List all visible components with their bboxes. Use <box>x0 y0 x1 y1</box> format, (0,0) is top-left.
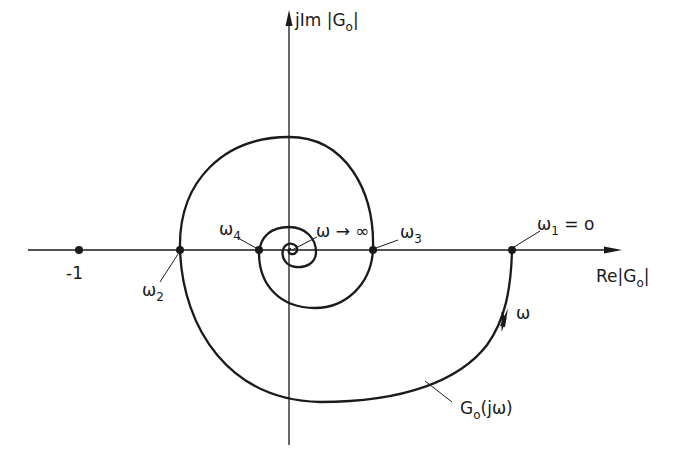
label-omega2: ω2 <box>142 282 164 303</box>
point-omega1 <box>508 246 516 254</box>
point-omega3 <box>369 246 377 254</box>
label-omega4: ω4 <box>219 221 241 242</box>
real-axis-arrow-icon <box>604 247 622 254</box>
imaginary-axis-label: jIm |Go| <box>295 12 359 33</box>
real-axis-label: Re|Go| <box>596 268 650 289</box>
nyquist-curve <box>180 137 512 402</box>
leader-omega2 <box>160 254 178 282</box>
leader-curve <box>425 381 452 402</box>
label-minus-one: -1 <box>66 265 83 282</box>
leader-omega-inf <box>292 237 317 250</box>
point-omega2 <box>176 246 184 254</box>
point-minus-one <box>75 246 83 254</box>
label-omega3: ω3 <box>400 224 422 245</box>
point-omega4 <box>255 246 263 254</box>
label-omega-infinity: ω → ∞ <box>316 223 369 240</box>
curve-label: Go(jω) <box>460 400 513 421</box>
label-omega1: ω1 = o <box>537 216 594 237</box>
leader-omega3 <box>376 240 398 248</box>
imaginary-axis-arrow-icon <box>286 10 293 26</box>
direction-label: ω <box>516 305 530 322</box>
